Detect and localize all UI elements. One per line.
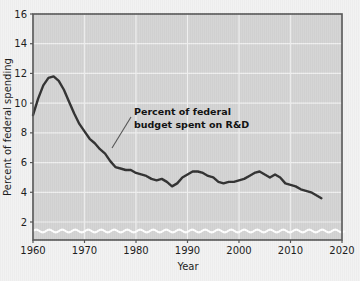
x-tick-label-2010: 2010 (278, 245, 303, 256)
y-tick-label-10: 10 (14, 98, 27, 109)
chart-canvas: 246810121416 196019701980199020002010202… (0, 0, 360, 281)
y-tick-label-12: 12 (14, 68, 27, 79)
x-tick-label-1980: 1980 (123, 245, 148, 256)
callout-line-1: Percent of federal (134, 106, 231, 117)
y-axis-label: Percent of federal spending (2, 58, 13, 196)
x-tick-label-2020: 2020 (329, 245, 354, 256)
x-tick-label-1970: 1970 (72, 245, 97, 256)
x-tick-label-1960: 1960 (20, 245, 45, 256)
callout-line-2: budget spent on R&D (134, 119, 249, 130)
x-axis-label: Year (176, 261, 199, 272)
x-tick-label-1990: 1990 (175, 245, 200, 256)
y-tick-label-14: 14 (14, 38, 27, 49)
y-tick-label-2: 2 (21, 217, 27, 228)
chart-figure: 246810121416 196019701980199020002010202… (0, 0, 360, 281)
y-tick-label-16: 16 (14, 9, 27, 20)
y-tick-label-4: 4 (21, 187, 27, 198)
y-tick-label-6: 6 (21, 157, 27, 168)
x-tick-label-2000: 2000 (226, 245, 251, 256)
y-tick-label-8: 8 (21, 127, 27, 138)
